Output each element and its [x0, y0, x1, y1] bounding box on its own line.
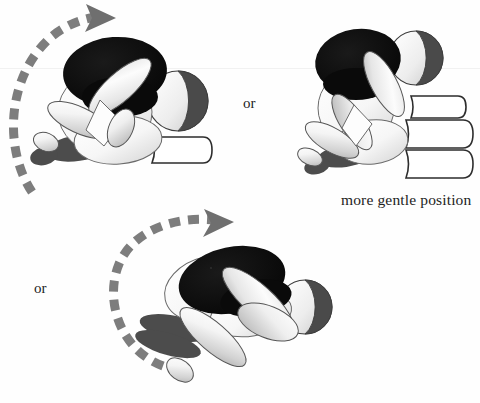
panel-right-top-figure: [295, 23, 473, 178]
diagram-canvas: or or more gentle position: [0, 0, 480, 403]
panel-left-top-figure: [13, 4, 212, 192]
connector-label-or-top: or: [243, 96, 256, 111]
panel-bottom-figure: [113, 209, 332, 387]
connector-label-or-bottom: or: [34, 281, 47, 296]
caption-more-gentle-position: more gentle position: [341, 192, 471, 208]
block-stack-icon: [406, 96, 473, 178]
hand: [162, 353, 198, 387]
eye-dot: [210, 267, 212, 269]
